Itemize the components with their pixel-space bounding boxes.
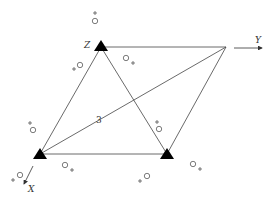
x-label: X	[27, 184, 35, 194]
diagonal-label: 3	[96, 115, 102, 125]
circle-plus-symbol	[72, 62, 83, 71]
triangle-marker-bottom-right	[160, 148, 174, 159]
circle-plus-symbol	[11, 172, 23, 182]
circle-plus-symbol	[190, 161, 202, 171]
circle-plus-symbol	[123, 55, 135, 65]
circle-plus-symbol	[62, 162, 74, 172]
triangle-marker-bottom-left	[33, 148, 47, 159]
y-label: Y	[255, 35, 262, 45]
circle-plus-symbol	[92, 11, 97, 24]
circle-plus-symbol	[155, 120, 162, 132]
electrode-diagram: Z Y X 3	[0, 0, 273, 198]
circle-plus-symbol	[28, 121, 36, 133]
circle-plus-symbol	[138, 173, 150, 183]
z-label: Z	[83, 40, 91, 50]
triangle-marker-z	[94, 40, 108, 51]
edge-right	[167, 47, 226, 154]
x-axis-arrow	[24, 166, 33, 184]
edge-left	[40, 47, 101, 154]
